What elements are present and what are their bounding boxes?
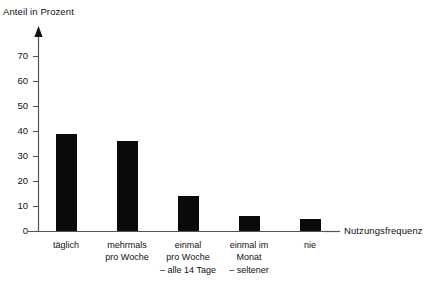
y-tick-label: 30	[6, 151, 28, 161]
y-axis-arrow	[34, 26, 42, 37]
bar-taeglich	[56, 134, 77, 232]
bar-einmal-im-monat	[239, 216, 260, 231]
bar-einmal-pro-woche	[178, 196, 199, 231]
bar-chart-figure: Anteil in Prozent Nutzungsfrequenz 0 10 …	[0, 0, 431, 288]
y-tick-label: 0	[6, 226, 28, 236]
bar-nie	[300, 219, 321, 232]
x-category-label: mehrmalspro Woche	[92, 239, 162, 264]
y-tick-label: 10	[6, 201, 28, 211]
x-category-label: einmalpro Woche– alle 14 Tage	[153, 239, 223, 276]
y-tick-label: 40	[6, 126, 28, 136]
y-tick-label: 60	[6, 76, 28, 86]
y-tick-label: 50	[6, 101, 28, 111]
y-tick-label: 70	[6, 51, 28, 61]
x-category-label: nie	[275, 239, 345, 251]
y-tick-label: 20	[6, 176, 28, 186]
y-axis-ticks	[33, 57, 39, 232]
x-category-label: täglich	[31, 239, 101, 251]
x-category-label: einmal imMonat– seltener	[214, 239, 284, 276]
bar-mehrmals-pro-woche	[117, 141, 138, 231]
